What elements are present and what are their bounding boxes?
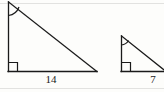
large-triangle-hypotenuse [9, 2, 98, 72]
small-triangle-right-angle-marker [122, 63, 131, 72]
large-triangle-right-angle-marker [9, 63, 18, 72]
large-triangle-base-label: 14 [36, 74, 66, 85]
large-right-triangle [8, 2, 97, 72]
small-triangle-base-label: 7 [139, 74, 164, 85]
geometry-figure: 14 7 [0, 0, 164, 92]
small-triangle-apex-angle-arc [122, 41, 129, 46]
small-right-triangle [121, 36, 164, 72]
